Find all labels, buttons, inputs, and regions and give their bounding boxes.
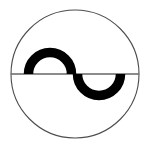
diagram-canvas — [0, 0, 150, 146]
circle-s-curve-figure — [0, 0, 150, 146]
